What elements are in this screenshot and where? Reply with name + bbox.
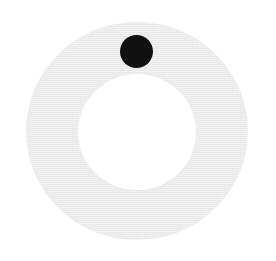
dial-center-hole [78,74,196,190]
dial-indicator-handle[interactable] [120,35,153,68]
dial-widget [0,0,276,261]
